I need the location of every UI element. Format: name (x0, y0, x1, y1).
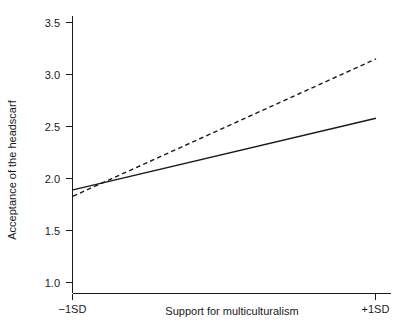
y-tick-label-2.0: 2.0 (45, 173, 60, 185)
x-tick-label-minus1sd: −1SD (59, 303, 87, 315)
y-tick-label-2.5: 2.5 (45, 121, 60, 133)
y-tick-label-3.0: 3.0 (45, 69, 60, 81)
y-axis-title: Acceptance of the headscarf (6, 99, 18, 239)
x-tick-label-plus1sd: +1SD (362, 303, 390, 315)
x-axis-title: Support for multiculturalism (165, 305, 298, 317)
chart-canvas: 3.5 3.0 2.5 2.0 1.5 1.0 −1SD +1SD Accept… (0, 0, 401, 329)
y-tick-label-3.5: 3.5 (45, 17, 60, 29)
series-dashed-line (73, 59, 376, 196)
chart-figure: 3.5 3.0 2.5 2.0 1.5 1.0 −1SD +1SD Accept… (0, 0, 401, 329)
series-solid-line (73, 118, 376, 190)
y-tick-label-1.5: 1.5 (45, 225, 60, 237)
y-tick-label-1.0: 1.0 (45, 277, 60, 289)
